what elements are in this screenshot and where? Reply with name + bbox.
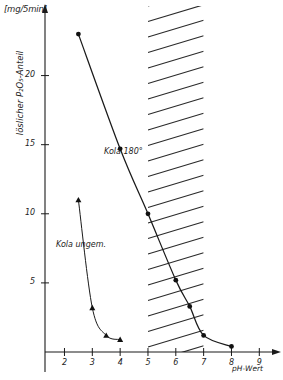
data-point	[173, 278, 178, 283]
y-tick-label: 5	[30, 277, 35, 286]
x-tick-label: 3	[90, 358, 95, 367]
data-point	[187, 304, 192, 309]
x-tick-label: 6	[173, 358, 178, 367]
series-kola-ungem	[75, 197, 123, 342]
y-tick-label: 15	[25, 139, 35, 148]
series-label-kola-180: Kola 180°	[104, 147, 143, 156]
data-point	[201, 333, 206, 338]
y-tick-label: 20	[25, 70, 35, 79]
y-tick-label: 10	[25, 208, 35, 217]
x-tick-label: 2	[62, 358, 67, 367]
series-label-kola-ungem: Kola ungem.	[56, 240, 106, 249]
x-tick-label: 8	[229, 358, 234, 367]
data-point	[229, 344, 234, 349]
x-tick-label: 9	[257, 358, 262, 367]
x-tick-label: 4	[118, 358, 123, 367]
x-tick-label: 5	[145, 358, 150, 367]
data-point	[75, 197, 81, 202]
chart-canvas	[0, 0, 283, 380]
data-point	[76, 32, 81, 37]
data-point	[89, 305, 95, 310]
y-axis-unit-label: [mg/5min]	[4, 4, 47, 14]
y-axis-title: löslicher P₂O₅-Anteil	[15, 45, 25, 141]
x-axis-arrow	[272, 349, 281, 355]
x-tick-label: 7	[201, 358, 206, 367]
data-point	[146, 211, 151, 216]
